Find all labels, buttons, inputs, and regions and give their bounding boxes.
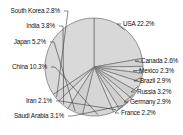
- slice-label-saudi-arabia: Saudi Arabia 3.1%: [14, 112, 64, 119]
- pie-slice-group: [45, 18, 143, 116]
- slice-label-france: France 2.2%: [121, 109, 156, 116]
- slice-label-brazil: Brazil 2.9%: [140, 77, 171, 84]
- slice-label-south-korea: South Korea 2.8%: [11, 7, 61, 14]
- slice-label-mexico: Mexico 2.3%: [139, 67, 174, 74]
- slice-label-china: China 10.3%: [12, 63, 47, 70]
- slice-label-india: India 3.8%: [26, 22, 55, 29]
- pie-chart-figure: South Korea 2.8% India 3.8% Japan 5.2% C…: [0, 0, 183, 135]
- slice-label-germany: Germany 2.9%: [130, 98, 171, 106]
- slice-label-usa: USA 22.2%: [123, 20, 155, 27]
- slice-label-iran: Iran 2.1%: [26, 97, 52, 104]
- slice-label-russia: Russia 3.2%: [137, 88, 172, 95]
- pie-chart-svg: South Korea 2.8% India 3.8% Japan 5.2% C…: [0, 0, 183, 135]
- slice-label-canada: Canada 2.6%: [141, 57, 179, 64]
- slice-label-japan: Japan 5.2%: [14, 38, 47, 46]
